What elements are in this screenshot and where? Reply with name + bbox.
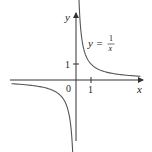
origin-label: 0 (66, 83, 71, 94)
y-tick-label-1: 1 (65, 59, 70, 70)
equation-numerator: 1 (109, 34, 113, 43)
y-axis-label: y (64, 11, 70, 23)
equation-lhs: y = (87, 37, 103, 49)
hyperbola-plot: y x 0 1 1 y = 1 x (0, 0, 152, 152)
equation-denominator: x (108, 44, 113, 53)
x-tick-label-1: 1 (88, 84, 93, 95)
curve-branch-negative (12, 84, 74, 152)
equation-label: y = 1 x (87, 34, 115, 53)
x-axis-label: x (136, 83, 142, 95)
